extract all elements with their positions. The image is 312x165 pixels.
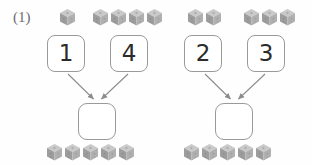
cube-icon	[59, 8, 76, 27]
cube-icon	[237, 143, 254, 162]
cube-icon	[118, 143, 135, 162]
addend-digit-left-second: 4	[122, 42, 137, 65]
cube-icon	[201, 143, 218, 162]
cube-icon	[261, 8, 278, 27]
cube-icon	[100, 143, 117, 162]
cube-icon	[183, 143, 200, 162]
arrow-left-a	[68, 74, 94, 99]
cube-icon	[92, 8, 109, 27]
cube-icon	[205, 8, 222, 27]
arrow-right-a	[205, 74, 231, 99]
cube-icon	[64, 143, 81, 162]
cube-icon	[187, 8, 204, 27]
sum-box-right[interactable]	[215, 103, 253, 140]
problem-number-label: (1)	[13, 8, 31, 26]
addend-box-left-first[interactable]: 1	[47, 35, 85, 72]
cube-icon	[243, 8, 260, 27]
addend-digit-right-first: 2	[196, 42, 211, 65]
cube-icon	[255, 143, 272, 162]
cube-icon	[279, 8, 296, 27]
cube-icon	[128, 8, 145, 27]
cube-icon	[146, 8, 163, 27]
cube-icon	[219, 143, 236, 162]
arrow-left-b	[102, 74, 129, 99]
addend-digit-left-first: 1	[59, 42, 74, 65]
worksheet-page: (1) 1 4 2 3	[0, 0, 312, 165]
cube-icon	[110, 8, 127, 27]
cube-icon	[46, 143, 63, 162]
addend-box-right-first[interactable]: 2	[184, 35, 222, 72]
addend-box-right-second[interactable]: 3	[247, 35, 285, 72]
addend-box-left-second[interactable]: 4	[110, 35, 148, 72]
cube-icon	[82, 143, 99, 162]
arrow-right-b	[239, 74, 266, 99]
sum-box-left[interactable]	[78, 103, 116, 140]
addend-digit-right-second: 3	[259, 42, 274, 65]
